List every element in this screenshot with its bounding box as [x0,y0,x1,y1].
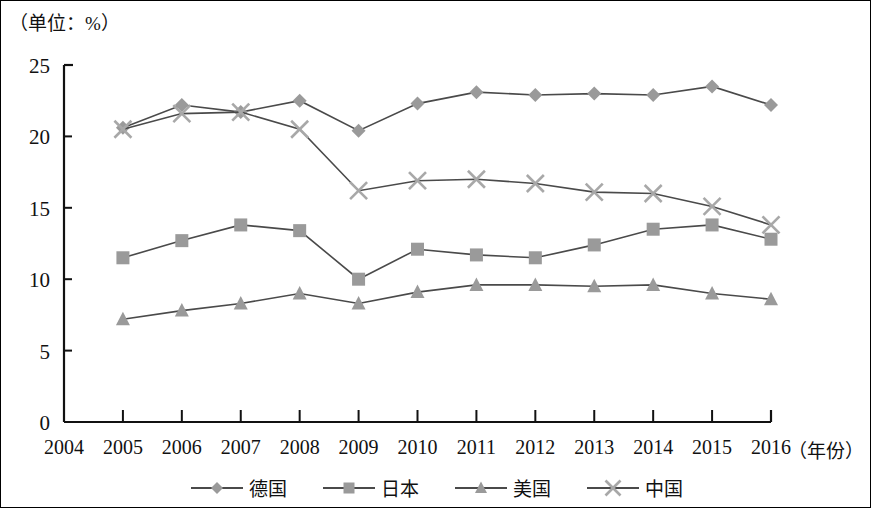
legend-item-x[interactable]: 中国 [585,474,683,501]
x-tick-label: 2008 [280,436,320,458]
legend-item-diamond[interactable]: 德国 [189,474,287,501]
legend-item-triangle[interactable]: 美国 [453,474,551,501]
series-diamond [116,79,778,137]
marker-square [765,233,778,246]
marker-diamond [764,98,778,112]
x-tick-label: 2005 [103,436,143,458]
chart-page: （单位：%） 0510152025 2004200520062007200820… [0,0,871,508]
marker-diamond [646,88,660,102]
x-tick-label: 2011 [457,436,496,458]
legend-marker-triangle-icon [453,478,509,498]
x-tick-label: 2016 [751,436,791,458]
y-tick-label: 0 [40,411,51,435]
series-line [123,112,771,225]
x-tick-label: 2010 [398,436,438,458]
series-line [123,225,771,279]
marker-diamond [293,94,307,108]
marker-square [293,224,306,237]
y-tick-label: 20 [29,125,50,149]
marker-square [588,238,601,251]
marker-diamond [411,97,425,111]
marker-square [234,218,247,231]
series-square [116,218,777,285]
marker-square [470,248,483,261]
marker-square [175,234,188,247]
x-tick-label: 2006 [162,436,202,458]
marker-triangle [646,277,660,291]
series-x [114,104,779,234]
x-axis-label: （年份） [788,436,864,463]
marker-square [647,223,660,236]
x-tick-label: 2014 [633,436,673,458]
legend-marker-diamond-icon [189,478,245,498]
legend-label: 美国 [513,474,551,501]
marker-x [350,182,367,199]
line-chart: 0510152025 20042005200620072008200920102… [1,1,871,471]
legend-item-square[interactable]: 日本 [321,474,419,501]
x-tick-label: 2013 [574,436,614,458]
y-tick-label: 10 [29,268,50,292]
legend-label: 德国 [249,474,287,501]
series-line [123,86,771,130]
marker-square [352,273,365,286]
legend-marker-x-icon [585,478,641,498]
legend-label: 日本 [381,474,419,501]
marker-x [763,216,780,233]
marker-diamond [587,87,601,101]
marker-diamond [705,79,719,93]
y-tick-label: 25 [29,54,50,78]
marker-square [116,251,129,264]
marker-diamond [211,482,223,494]
marker-square [343,482,354,493]
marker-x [291,121,308,138]
marker-x [704,198,721,215]
legend-label: 中国 [645,474,683,501]
marker-diamond [469,85,483,99]
marker-square [411,243,424,256]
series-line [123,285,771,319]
y-axis: 0510152025 [29,54,73,435]
x-tick-label: 2007 [221,436,261,458]
y-tick-label: 15 [29,197,50,221]
x-tick-label: 2015 [692,436,732,458]
x-tick-label: 2009 [339,436,379,458]
marker-square [529,251,542,264]
marker-diamond [528,88,542,102]
marker-diamond [352,124,366,138]
chart-legend: 德国日本美国中国 [1,474,870,501]
x-tick-label: 2012 [515,436,555,458]
marker-triangle [293,286,307,300]
x-axis: 2004200520062007200820092010201120122013… [44,410,791,458]
legend-marker-square-icon [321,478,377,498]
series-layer [114,79,779,325]
y-tick-label: 5 [40,340,51,364]
series-triangle [116,277,778,325]
x-tick-label: 2004 [44,436,84,458]
marker-square [706,218,719,231]
